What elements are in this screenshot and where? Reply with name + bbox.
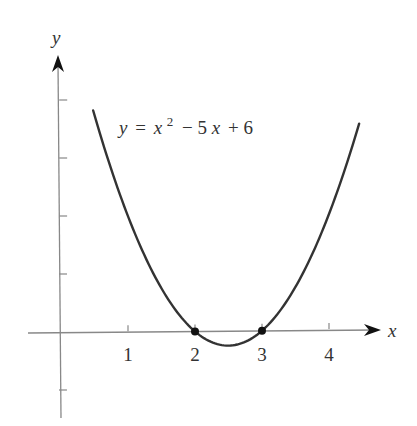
- x-axis-line: [28, 330, 375, 333]
- y-axis-line: [58, 63, 61, 418]
- x-tick-label: 3: [257, 344, 267, 365]
- x-tick-label: 2: [190, 344, 200, 365]
- root-point: [191, 328, 199, 336]
- root-point: [258, 327, 266, 335]
- parabola-curve: [93, 110, 359, 345]
- x-tick-labels: 1234: [123, 344, 334, 365]
- x-axis-label: x: [387, 320, 397, 341]
- y-axis-label: y: [50, 27, 61, 48]
- x-tick-label: 4: [324, 344, 334, 365]
- parabola-chart: x y 1234 y = x 2 − 5 x + 6: [0, 0, 417, 426]
- x-tick-label: 1: [123, 344, 133, 365]
- equation-label: y = x 2 − 5 x + 6: [117, 109, 253, 138]
